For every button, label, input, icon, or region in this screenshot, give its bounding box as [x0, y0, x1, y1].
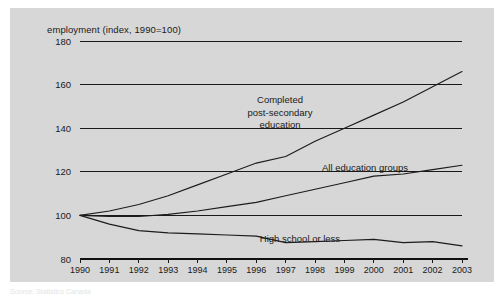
- x-tick-1997: 1997: [276, 265, 296, 275]
- y-tick-80: 80: [60, 254, 71, 265]
- x-tick-1995: 1995: [217, 265, 237, 275]
- x-axis-tick-labels: 1990199119921993199419951996199719981999…: [70, 265, 472, 275]
- x-tick-2001: 2001: [393, 265, 413, 275]
- y-tick-180: 180: [55, 36, 71, 47]
- x-tick-1996: 1996: [246, 265, 266, 275]
- chart-panel: employment (index, 1990=100) 80100120140…: [10, 8, 494, 282]
- y-tick-140: 140: [55, 123, 71, 134]
- x-tick-1998: 1998: [305, 265, 325, 275]
- line-chart-plot: 80100120140160180 1990199119921993199419…: [10, 8, 494, 282]
- y-tick-100: 100: [55, 210, 71, 221]
- y-tick-120: 120: [55, 166, 71, 177]
- x-tick-2003: 2003: [452, 265, 472, 275]
- annotation-high-school-or-less: High school or less: [260, 233, 341, 244]
- source-note: Source: Statistics Canada: [10, 288, 494, 295]
- x-tick-2002: 2002: [423, 265, 443, 275]
- x-tick-1990: 1990: [70, 265, 90, 275]
- x-tick-1991: 1991: [99, 265, 119, 275]
- annotation-completed-post-secondary-education: Completedpost-secondaryeducation: [248, 94, 313, 130]
- x-axis: [80, 259, 468, 263]
- chart-figure: employment (index, 1990=100) 80100120140…: [0, 0, 504, 301]
- x-tick-1994: 1994: [188, 265, 208, 275]
- y-axis-tick-labels: 80100120140160180: [55, 36, 71, 265]
- annotation-all-education-groups: All education groups: [322, 162, 408, 173]
- x-tick-1999: 1999: [334, 265, 354, 275]
- x-tick-2000: 2000: [364, 265, 384, 275]
- series-annotations-group: Completedpost-secondaryeducationAll educ…: [248, 94, 409, 244]
- x-tick-1993: 1993: [158, 265, 178, 275]
- y-tick-160: 160: [55, 79, 71, 90]
- x-tick-1992: 1992: [129, 265, 149, 275]
